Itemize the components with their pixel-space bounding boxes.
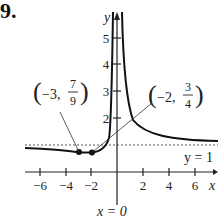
tick-label-x: 2 (140, 178, 147, 193)
point-label-den: 4 (185, 97, 191, 111)
x-axis-arrow-icon (213, 169, 218, 175)
paren-open: ( (33, 77, 42, 106)
tick-label-y: 4 (103, 57, 110, 72)
tick-label-y: 5 (103, 31, 110, 46)
horizontal-asymptote-label: y = 1 (184, 150, 213, 165)
y-axis-arrow-icon (114, 12, 120, 20)
point-label-num: 7 (70, 77, 76, 91)
graph: −6 −4 −2 2 4 6 5 4 3 2 y x y = 1 x = 0 (… (0, 0, 218, 220)
tick-label-y: 2 (103, 111, 110, 126)
point-label-x: −2, (157, 90, 175, 105)
paren-close: ) (195, 80, 204, 109)
curve-right-branch (122, 12, 218, 141)
vertical-asymptote-label: x = 0 (96, 204, 127, 219)
tick-label-x: −6 (33, 178, 47, 193)
tick-label-y: 3 (103, 84, 110, 99)
point-label-neg2: ( −2, 3 4 ) (148, 80, 204, 111)
point-label-den: 9 (70, 94, 76, 108)
tick-label-x: 4 (166, 178, 173, 193)
point-label-num: 3 (185, 80, 191, 94)
leader-line-1 (60, 112, 79, 152)
paren-close: ) (80, 77, 89, 106)
x-axis-label: x (208, 178, 216, 193)
tick-label-x: −4 (59, 178, 73, 193)
paren-open: ( (148, 80, 157, 109)
point-label-neg3: ( −3, 7 9 ) (33, 77, 89, 108)
tick-label-x: −2 (84, 178, 98, 193)
tick-label-x: 6 (192, 178, 199, 193)
y-axis-label: y (102, 10, 111, 25)
point-label-x: −3, (42, 87, 60, 102)
